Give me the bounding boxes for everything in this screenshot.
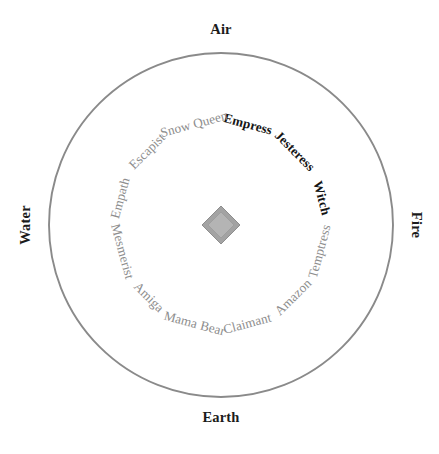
element-label-air: Air	[210, 21, 232, 37]
element-label-earth: Earth	[202, 409, 239, 425]
wheel-canvas: EmpressJesteressWitchTemptressAmazonClai…	[0, 0, 439, 454]
wheel-diagram: EmpressJesteressWitchTemptressAmazonClai…	[0, 0, 439, 454]
element-label-water: Water	[17, 205, 33, 245]
element-label-fire: Fire	[409, 212, 425, 239]
